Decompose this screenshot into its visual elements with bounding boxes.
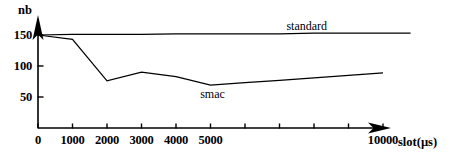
series-line-standard [38, 33, 411, 35]
x-tick-label: 5000 [181, 134, 241, 147]
y-tick-label: 100 [0, 60, 32, 73]
series-line-smac [38, 35, 383, 85]
chart-figure: 01000200030004000500010000 50100150 nb s… [0, 0, 453, 158]
y-axis-title: nb [18, 4, 32, 17]
y-tick-label: 150 [0, 29, 32, 42]
series-label-smac: smac [200, 88, 225, 100]
series-group [38, 33, 411, 85]
series-label-standard: standard [286, 20, 327, 32]
y-tick-label: 50 [0, 91, 32, 104]
x-axis-title: slot(µs) [398, 136, 437, 149]
